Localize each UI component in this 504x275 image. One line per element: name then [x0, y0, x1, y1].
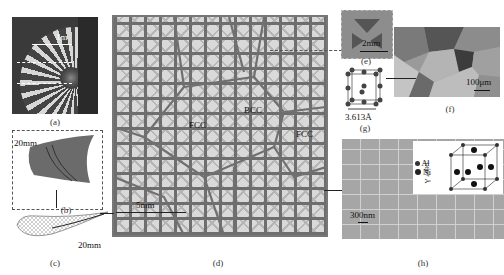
scale-label-d: 5mm [136, 200, 155, 210]
connector-c-to-d [100, 213, 114, 214]
caption-a: (a) [40, 117, 70, 127]
caption-h: (h) [413, 258, 433, 268]
scale-line-e [360, 51, 388, 52]
scale-label-h: 300nm [350, 210, 375, 220]
caption-f: (f) [440, 104, 460, 114]
scale-label-f: 100μm [466, 77, 491, 87]
scale-line [32, 44, 72, 45]
unit-cell-closeup: 2mm [341, 10, 393, 59]
engine-casing [78, 17, 98, 114]
lattice-constant-g: 3.613Å [345, 112, 372, 122]
grain-label-fcc-left: FCC [189, 120, 206, 130]
grain-label-fcc-right: FCC [296, 129, 313, 139]
engine-photo: 1m [12, 17, 98, 114]
blade-highlight [17, 62, 72, 84]
scale-line-f [474, 90, 490, 91]
caption-c: (c) [45, 258, 65, 268]
fcc-unit-cell [342, 66, 386, 112]
caption-d: (d) [208, 258, 228, 268]
scale-line-h [358, 222, 368, 223]
connector-d-to-h [324, 190, 342, 191]
caption-g: (g) [355, 123, 375, 133]
scale-label-b: 20mm [14, 138, 37, 148]
l12-cell [447, 143, 501, 193]
l12-unit-cell-inset: Al Ni 3.667 Å [413, 141, 503, 194]
scale-label-a: 1m [56, 32, 68, 42]
caption-e: (e) [356, 56, 376, 66]
scale-label-e: 2mm [362, 38, 381, 48]
lattice-constant-h: 3.667 Å [423, 161, 431, 184]
lattice-structure: FCC BCC FCC 5mm [112, 15, 328, 237]
scale-label-c: 20mm [78, 240, 101, 250]
scale-line-d [116, 212, 186, 213]
zoom-connector [270, 50, 342, 51]
grain-label-bcc: BCC [244, 105, 262, 115]
grain-micrograph: 100μm [394, 27, 500, 97]
connector-f-to-g [386, 78, 416, 79]
